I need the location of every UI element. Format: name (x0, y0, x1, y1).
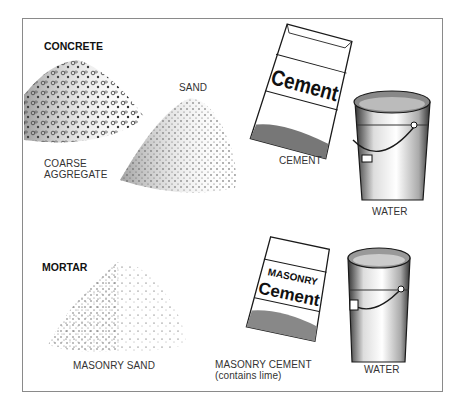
section-heading-concrete: CONCRETE (44, 40, 103, 52)
label-masonry-cement: MASONRY CEMENT (contains lime) (215, 359, 312, 381)
label-sand: SAND (179, 82, 207, 93)
water-bucket-icon (348, 248, 410, 362)
label-cement: CEMENT (279, 155, 322, 166)
water-bucket-icon (353, 91, 430, 200)
cement-bag-icon: MASONRY Cement (246, 236, 334, 342)
label-line: (contains lime) (215, 370, 312, 381)
label-line: AGGREGATE (44, 169, 108, 180)
sand-pile-icon (48, 262, 185, 353)
gravel-pile-icon (24, 60, 145, 142)
label-water: WATER (364, 364, 400, 375)
label-line: MASONRY CEMENT (215, 359, 312, 370)
label-coarse-aggregate: COARSE AGGREGATE (44, 158, 108, 180)
section-heading-mortar: MORTAR (42, 261, 87, 273)
label-water: WATER (372, 206, 408, 217)
cement-bag-icon: Cement (250, 23, 356, 159)
illustration-layer: Cement MASONRY Cement (0, 0, 462, 400)
label-line: COARSE (44, 158, 108, 169)
label-masonry-sand: MASONRY SAND (73, 360, 155, 371)
